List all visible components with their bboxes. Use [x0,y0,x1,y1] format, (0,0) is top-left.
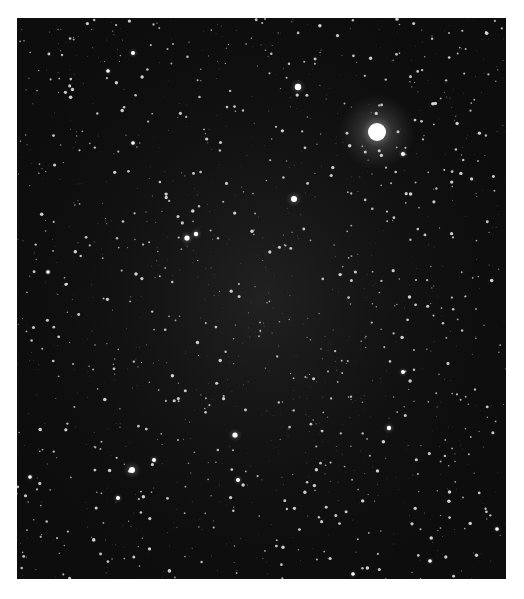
star-field-canvas [17,18,506,579]
star-field-photo [17,18,506,579]
